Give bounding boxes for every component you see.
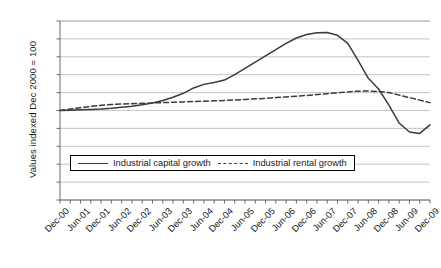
legend-label-capital-growth: Industrial capital growth <box>113 158 211 168</box>
legend-item-capital-growth: Industrial capital growth <box>78 158 211 168</box>
dashed-line-key-icon <box>218 163 248 164</box>
solid-line-key-icon <box>78 163 108 164</box>
legend-label-rental-growth: Industrial rental growth <box>253 158 347 168</box>
legend-item-rental-growth: Industrial rental growth <box>218 158 347 168</box>
chart-legend: Industrial capital growth Industrial ren… <box>70 155 355 171</box>
